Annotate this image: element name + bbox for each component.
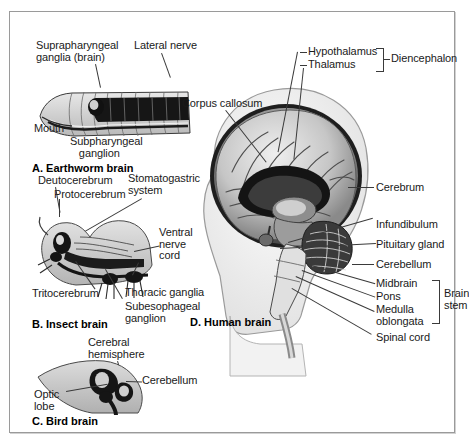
label-deutocerebrum: Deutocerebrum [38, 175, 113, 187]
caption-earthworm-brain: A. Earthworm brain [32, 162, 133, 174]
label-brain-stem: Brain stem [444, 288, 469, 311]
caption-bird-brain: C. Bird brain [32, 415, 98, 427]
leader-cerebellum [352, 264, 374, 265]
label-corpus-callosum: Corpus callosum [182, 98, 262, 110]
label-subpharyngeal-ganglion: Subpharyngeal ganglion [70, 136, 143, 159]
panel-human-brain: Corpus callosum Hypothalamus Thalamus Di… [180, 32, 450, 362]
leader-suprapharyngeal [95, 64, 101, 88]
label-thalamus: Thalamus [308, 59, 356, 71]
label-medulla-oblongata: Medulla oblongata [376, 304, 423, 327]
label-optic-lobe: Optic lobe [34, 389, 59, 412]
label-midbrain: Midbrain [376, 278, 417, 290]
label-pons: Pons [376, 291, 401, 303]
label-diencephalon: Diencephalon [391, 53, 457, 65]
label-cerebrum: Cerebrum [376, 182, 424, 194]
figure-frame: Suprapharyngeal ganglia (brain) Lateral … [9, 11, 455, 433]
label-tritocerebrum: Tritocerebrum [32, 288, 99, 300]
caption-human-brain: D. Human brain [190, 316, 271, 328]
label-protocerebrum: Protocerebrum [54, 189, 125, 201]
label-spinal-cord: Spinal cord [376, 332, 430, 344]
tick-hypothalamus [300, 52, 307, 53]
label-infundibulum: Infundibulum [376, 219, 438, 231]
bracket-diencephalon [376, 48, 384, 72]
label-cerebellum: Cerebellum [376, 259, 431, 271]
label-pituitary-gland: Pituitary gland [376, 239, 444, 251]
leader-lateral-nerve [161, 53, 171, 78]
label-cerebellum: Cerebellum [142, 375, 197, 387]
label-hypothalamus: Hypothalamus [308, 46, 377, 58]
caption-insect-brain: B. Insect brain [32, 318, 108, 330]
human-head-illustration [190, 76, 390, 376]
label-cerebral-hemisphere: Cerebral hemisphere [88, 337, 144, 360]
bracket-brain-stem [432, 280, 440, 324]
label-suprapharyngeal-ganglia: Suprapharyngeal ganglia (brain) [36, 40, 118, 63]
tick-diencephalon [383, 59, 390, 60]
leader-cerebrum [348, 187, 374, 188]
label-mouth: Mouth [34, 123, 64, 135]
tick-thalamus [300, 65, 307, 66]
